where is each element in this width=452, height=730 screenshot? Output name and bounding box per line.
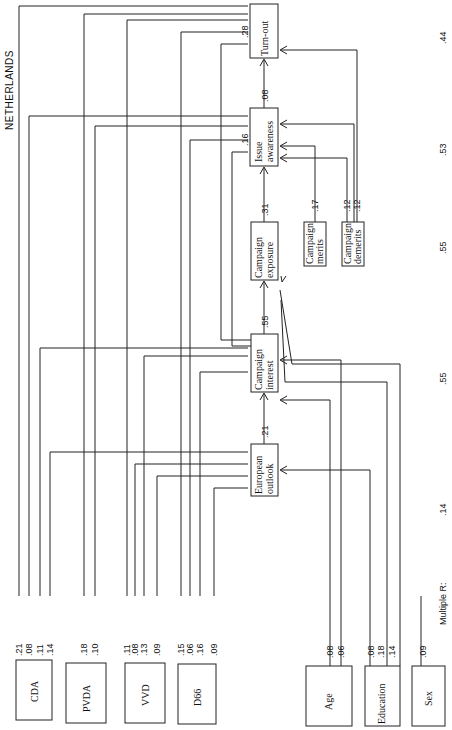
- diagram-title: NETHERLANDS: [4, 50, 15, 130]
- svg-text:.09: .09: [152, 643, 162, 656]
- turn-out-box: Turn-out: [250, 4, 278, 58]
- svg-text:Issue: Issue: [253, 141, 264, 162]
- coef-exposure-awareness: .31: [260, 203, 270, 216]
- multiple-r-campaign-exposure: .55: [438, 241, 448, 254]
- svg-text:.16: .16: [195, 643, 205, 656]
- predictor-pvda: PVDA .18 .10: [66, 643, 106, 723]
- svg-text:.08: .08: [24, 643, 34, 656]
- svg-text:Education: Education: [376, 683, 387, 724]
- svg-text:.14: .14: [387, 645, 397, 658]
- svg-text:awareness: awareness: [264, 121, 275, 162]
- svg-text:.13: .13: [139, 643, 149, 656]
- interest-direct-paths: [221, 44, 251, 346]
- predictor-cda: CDA .21 .08 .11 .14: [14, 643, 55, 720]
- svg-text:.09: .09: [418, 645, 428, 658]
- svg-text:demerits: demerits: [352, 229, 363, 264]
- svg-text:D66: D66: [192, 689, 203, 706]
- svg-text:exposure: exposure: [264, 241, 275, 278]
- predictor-sex: Sex .09: [412, 645, 445, 726]
- demographic-paths: [280, 276, 400, 596]
- campaign-demerits-box: Campaign demerits: [342, 222, 364, 266]
- multiple-r-label: Multiple R:: [438, 582, 448, 625]
- svg-text:.14: .14: [45, 643, 55, 656]
- svg-text:European: European: [253, 456, 264, 494]
- svg-text:.18: .18: [79, 643, 89, 656]
- svg-text:.09: .09: [209, 643, 219, 656]
- svg-text:Turn-out: Turn-out: [259, 21, 270, 56]
- svg-text:CDA: CDA: [29, 680, 40, 702]
- predictor-d66: D66 .15 .06 .16 .09: [176, 643, 219, 724]
- coef-interest-exposure: .55: [260, 315, 270, 328]
- predictor-age: Age .08 .06: [306, 645, 352, 726]
- multiple-r-issue-awareness: .53: [438, 143, 448, 156]
- svg-text:.12: .12: [342, 199, 352, 212]
- campaign-merits-box: Campaign merits: [304, 222, 326, 266]
- svg-text:.10: .10: [90, 643, 100, 656]
- svg-text:.08: .08: [366, 645, 376, 658]
- european-outlook-box: European outlook: [251, 444, 278, 496]
- svg-text:interest: interest: [264, 360, 275, 390]
- campaign-interest-box: Campaign interest: [251, 334, 278, 392]
- svg-text:.18: .18: [376, 645, 386, 658]
- side-input-arrows: [280, 46, 357, 222]
- svg-text:VVD: VVD: [140, 684, 151, 706]
- issue-awareness-box: Issue awareness: [250, 108, 278, 166]
- svg-text:outlook: outlook: [264, 463, 275, 494]
- path-diagram: NETHERLANDS Turn-out Issue awareness Cam…: [0, 0, 452, 730]
- svg-text:merits: merits: [314, 239, 325, 264]
- campaign-exposure-box: Campaign exposure: [251, 222, 278, 280]
- svg-text:Campaign: Campaign: [253, 237, 264, 278]
- svg-text:.06: .06: [185, 643, 195, 656]
- svg-text:Age: Age: [323, 693, 334, 710]
- svg-text:.12: .12: [352, 199, 362, 212]
- svg-text:Campaign: Campaign: [253, 349, 264, 390]
- svg-text:Sex: Sex: [423, 691, 434, 706]
- svg-text:.17: .17: [310, 199, 320, 212]
- party-paths: [19, 6, 248, 596]
- coef-outlook-interest: .21: [260, 425, 270, 438]
- multiple-r-turn-out: .44: [438, 31, 448, 44]
- svg-text:.11: .11: [35, 644, 45, 656]
- multiple-r-european-outlook: .14: [438, 503, 448, 516]
- svg-text:PVDA: PVDA: [81, 684, 92, 712]
- multiple-r-campaign-interest: .55: [438, 372, 448, 385]
- coef-awareness-turnout: .08: [260, 89, 270, 102]
- predictor-vvd: VVD .11 .08 .13 .09: [122, 643, 165, 723]
- svg-text:.21: .21: [14, 643, 24, 656]
